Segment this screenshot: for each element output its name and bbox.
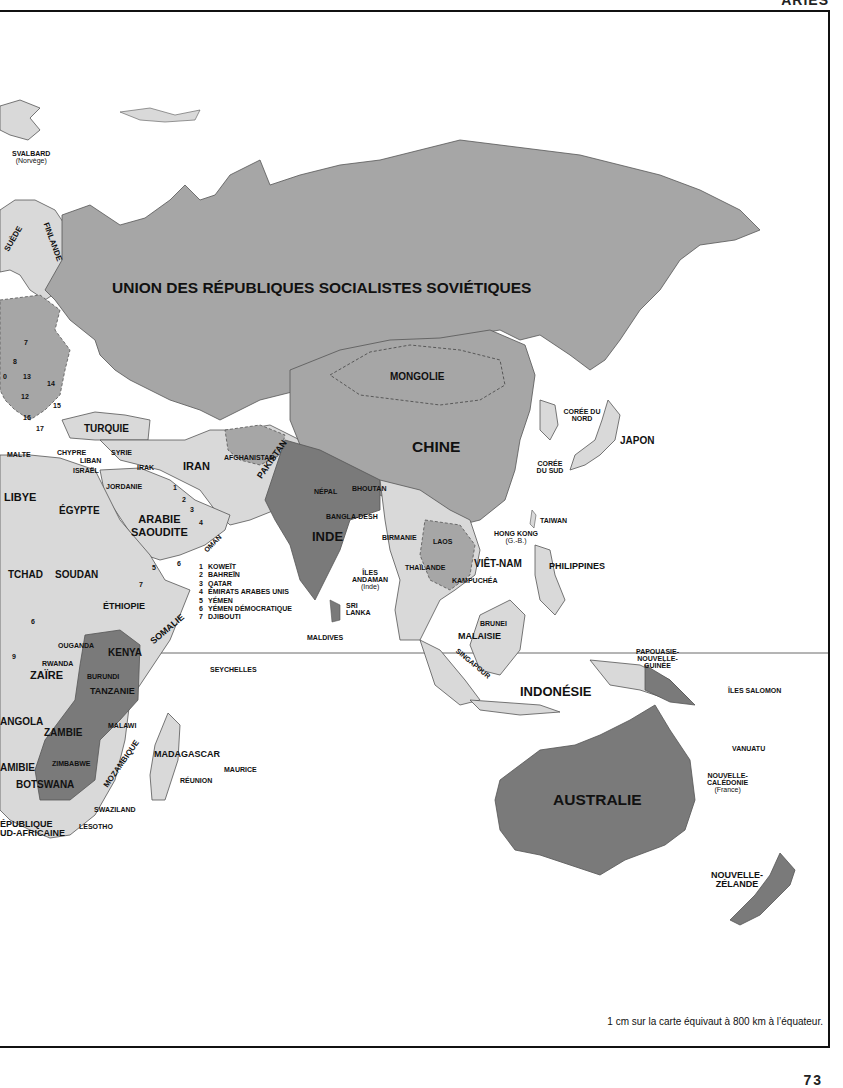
label-bhoutan: BHOUTAN <box>352 485 386 492</box>
nc-line2: CALÉDONIE <box>707 779 748 786</box>
label-birmanie: BIRMANIE <box>382 534 417 541</box>
korea-shape <box>540 400 558 440</box>
new-zealand-shape <box>730 853 795 925</box>
label-iran: IRAN <box>183 461 210 472</box>
label-japon: JAPON <box>620 436 654 446</box>
numbered-legend: 1KOWEÏT 2BAHREÏN 3QATAR 4ÉMIRATS ARABES … <box>199 563 292 622</box>
label-reunion: RÉUNION <box>180 777 212 784</box>
taiwan-shape <box>530 510 536 528</box>
label-coree-nord: CORÉE DU NORD <box>562 408 602 422</box>
gulf-number: 2 <box>182 496 186 503</box>
label-burundi: BURUNDI <box>87 673 119 680</box>
label-lesotho: LESOTHO <box>79 823 113 830</box>
papouasie-line1: PAPOUASIE- <box>636 648 679 655</box>
label-seychelles: SEYCHELLES <box>210 666 257 673</box>
label-taiwan: TAIWAN <box>540 517 567 524</box>
label-tanzanie: TANZANIE <box>90 687 135 696</box>
label-afrique-du-sud: ÉPUBLIQUE UD-AFRICAINE <box>0 820 65 838</box>
label-sri-lanka: SRI LANKA <box>346 602 371 616</box>
label-irak: IRAK <box>137 464 154 471</box>
sri-lanka-shape <box>330 600 340 622</box>
label-vietnam: VIÊT-NAM <box>474 559 522 569</box>
label-bangladesh: BANGLA-DESH <box>326 513 378 520</box>
label-philippines: PHILIPPINES <box>549 562 605 571</box>
gulf-number: 6 <box>177 560 181 567</box>
legend-item: 6YÉMEN DÉMOCRATIQUE <box>199 605 292 613</box>
label-nouvelle-caledonie: NOUVELLE- CALÉDONIE (France) <box>707 772 748 793</box>
afrique-sud-line2: UD-AFRICAINE <box>0 829 65 838</box>
europe-number: 16 <box>23 414 31 421</box>
label-rwanda: RWANDA <box>42 660 73 667</box>
gulf-number: 7 <box>139 581 143 588</box>
legend-item: 5YÉMEN <box>199 597 292 605</box>
legend-item: 2BAHREÏN <box>199 571 292 579</box>
gulf-number: 3 <box>190 506 194 513</box>
scale-note: 1 cm sur la carte équivaut à 800 km à l’… <box>607 1016 823 1027</box>
svalbard-sub: (Norvège) <box>12 157 50 164</box>
legend-item: 1KOWEÏT <box>199 563 292 571</box>
label-hong-kong: HONG KONG (G.-B.) <box>494 530 538 544</box>
africa-number: 6 <box>31 618 35 625</box>
label-svalbard: SVALBARD (Norvège) <box>12 150 50 164</box>
label-ouganda: OUGANDA <box>58 642 94 649</box>
europe-number: 12 <box>21 393 29 400</box>
label-zambie: ZAMBIE <box>44 728 82 738</box>
label-soudan: SOUDAN <box>55 570 98 580</box>
europe-number: 13 <box>23 373 31 380</box>
label-iles-salomon: ÎLES SALOMON <box>728 687 781 694</box>
label-papouasie: PAPOUASIE- NOUVELLE- GUINÉE <box>636 648 679 669</box>
label-zimbabwe: ZIMBABWE <box>52 760 91 767</box>
europe-number: 7 <box>24 339 28 346</box>
sri-lanka-line2: LANKA <box>346 609 371 616</box>
label-kampuchea: KAMPUCHÉA <box>452 577 498 584</box>
label-arabie: ARABIE SAOUDITE <box>131 513 188 539</box>
label-indonesie: INDONÉSIE <box>520 685 592 698</box>
label-liban: LIBAN <box>80 457 101 464</box>
label-ussr: UNION DES RÉPUBLIQUES SOCIALISTES SOVIÉT… <box>112 280 531 296</box>
label-jordanie: JORDANIE <box>106 483 142 490</box>
legend-item: 7DJIBOUTI <box>199 613 292 621</box>
label-laos: LAOS <box>433 538 452 545</box>
png-shape <box>645 665 695 705</box>
andaman-line1: ÎLES <box>352 569 388 576</box>
label-afghanistan: AFGHANISTAN <box>224 454 274 461</box>
svalbard-shape <box>0 100 40 140</box>
label-malawi: MALAWI <box>108 722 136 729</box>
label-inde: INDE <box>312 530 343 543</box>
nc-sub: (France) <box>707 786 748 793</box>
label-thailande: THAÏLANDE <box>405 564 445 571</box>
label-maurice: MAURICE <box>224 766 257 773</box>
label-mongolie: MONGOLIE <box>390 372 444 382</box>
label-malte: MALTE <box>7 451 31 458</box>
europe-number: 15 <box>53 402 61 409</box>
label-israel: ISRAËL <box>73 467 99 474</box>
label-malaisie: MALAISIE <box>458 632 501 641</box>
legend-item: 4ÉMIRATS ARABES UNIS <box>199 588 292 596</box>
label-australie: AUSTRALIE <box>553 792 642 808</box>
label-libye: LIBYE <box>4 492 36 503</box>
papouasie-line2: NOUVELLE- <box>636 655 679 662</box>
label-nouvelle-zelande: NOUVELLE- ZÉLANDE <box>711 871 763 889</box>
label-syrie: SYRIE <box>111 449 132 456</box>
europe-number: 0 <box>3 373 7 380</box>
label-madagascar: MADAGASCAR <box>154 750 220 759</box>
gulf-number: 5 <box>152 564 156 571</box>
arabie-line1: ARABIE <box>131 513 188 526</box>
philippines-shape <box>535 545 565 615</box>
page-number: 73 <box>803 1072 823 1088</box>
label-chypre: CHYPRE <box>57 449 86 456</box>
europe-number: 14 <box>47 380 55 387</box>
europe-number: 17 <box>36 425 44 432</box>
label-egypte: ÉGYPTE <box>59 506 100 516</box>
label-coree-sud: CORÉE DU SUD <box>532 460 568 474</box>
australia-shape <box>495 705 695 875</box>
label-maldives: MALDIVES <box>307 634 343 641</box>
legend-item: 3QATAR <box>199 580 292 588</box>
label-andaman: ÎLES ANDAMAN (Inde) <box>352 569 388 590</box>
label-nepal: NÉPAL <box>314 488 337 495</box>
sumatra-shape <box>420 640 480 705</box>
nc-line1: NOUVELLE- <box>707 772 748 779</box>
arabie-line2: SAOUDITE <box>131 526 188 539</box>
sri-lanka-line1: SRI <box>346 602 371 609</box>
